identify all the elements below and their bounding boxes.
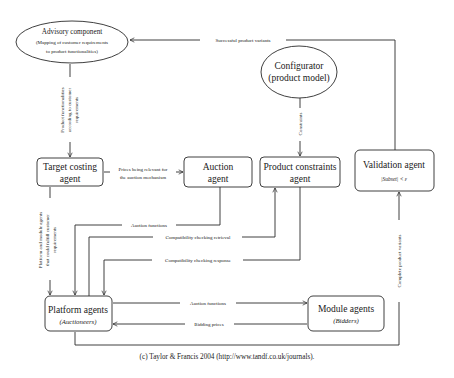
- node-platform-agents: Platform agents (Auctioneers): [45, 296, 112, 331]
- edge-label-platform-module-1: Platform and module agents: [38, 212, 43, 268]
- node-configurator: Configurator (product model): [261, 46, 337, 98]
- edge-label-complete-variants: Complete product variants: [397, 234, 402, 287]
- validation-line1: Validation agent: [363, 160, 425, 170]
- edge-prices-relevant: Prices being relevant for the auction me…: [104, 167, 183, 180]
- edge-label-auction-functions-2: Auction functions: [190, 301, 226, 306]
- edge-label-compat-response: Compatibility checking response: [165, 258, 232, 263]
- edge-label-auction-functions-1: Auction functions: [131, 223, 167, 228]
- node-product-constraints-agent: Product constraints agent: [260, 157, 340, 187]
- configurator-line2: (product model): [268, 73, 329, 84]
- node-target-costing-agent: Target costing agent: [37, 158, 103, 186]
- platform-line1: Platform agents: [48, 305, 108, 315]
- edge-product-functionalities: Product functionalities according to cus…: [60, 64, 79, 157]
- edge-compat-retrieval: Compatibility checking retrieval: [89, 188, 275, 296]
- edge-label-product-functionalities-1: Product functionalities: [60, 87, 65, 132]
- validation-formula: |Subset| < ε: [381, 176, 408, 182]
- edge-constraints: Constraints: [298, 98, 303, 156]
- agent-architecture-diagram: Successful product variants Product func…: [0, 0, 454, 378]
- node-module-agents: Module agents (Bidders): [308, 296, 384, 331]
- auction-line1: Auction: [203, 162, 234, 172]
- target-costing-line1: Target costing: [43, 162, 97, 172]
- node-advisory-component: Advisory component (Mapping of customer …: [16, 21, 128, 63]
- configurator-line1: Configurator: [274, 61, 324, 71]
- edge-label-prices-relevant-2: the auction mechanism: [120, 175, 166, 180]
- product-constraints-line1: Product constraints: [263, 162, 336, 172]
- edge-bidding-prices: Bidding prices: [113, 322, 307, 327]
- edge-label-product-functionalities-2: according to customer: [67, 87, 72, 132]
- auction-line2: agent: [208, 174, 229, 184]
- edge-successful-variants: Successful product variants: [130, 38, 395, 150]
- edge-label-prices-relevant-1: Prices being relevant for: [118, 167, 167, 172]
- copyright-notice: (c) Taylor & Francis 2004 (http://www.ta…: [140, 353, 315, 361]
- edge-compat-response: Compatibility checking response: [104, 187, 300, 295]
- edge-label-bidding-prices: Bidding prices: [194, 322, 223, 327]
- edge-label-platform-module-3: requirements: [52, 227, 57, 253]
- node-auction-agent: Auction agent: [184, 157, 252, 187]
- edge-label-constraints: Constraints: [298, 113, 303, 136]
- edge-platform-module-agents: Platform and module agents that could fu…: [38, 187, 57, 295]
- edge-label-compat-retrieval: Compatibility checking retrieval: [166, 235, 232, 240]
- edge-label-platform-module-2: that could fulfill customer: [45, 214, 50, 266]
- product-constraints-line2: agent: [290, 174, 311, 184]
- advisory-line1: (Mapping of customer requirements: [36, 40, 108, 45]
- target-costing-line2: agent: [60, 174, 81, 184]
- edge-label-successful-variants: Successful product variants: [216, 38, 271, 43]
- module-line2: (Bidders): [333, 317, 359, 325]
- edge-auction-functions-2: Auction functions: [113, 301, 307, 306]
- edge-label-product-functionalities-3: requirements: [74, 97, 79, 123]
- module-line1: Module agents: [318, 304, 375, 314]
- advisory-line2: to product functionalities): [46, 49, 98, 54]
- node-validation-agent: Validation agent |Subset| < ε: [355, 150, 434, 191]
- advisory-title: Advisory component: [42, 28, 103, 36]
- platform-line2: (Auctioneers): [60, 318, 98, 326]
- edge-auction-functions-1: Auction functions: [75, 187, 220, 295]
